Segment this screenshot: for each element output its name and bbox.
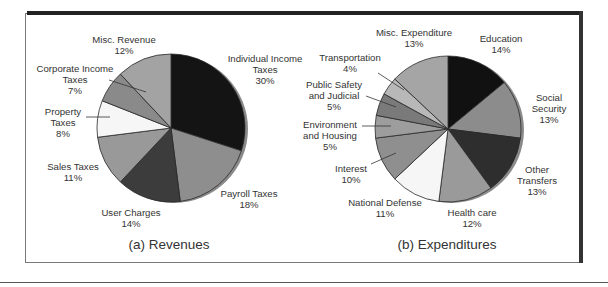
label-misc-expenditure-pct: 13%: [404, 38, 424, 49]
label-user-charges-pct: 14%: [121, 218, 141, 229]
label-environment: Environment: [303, 119, 357, 130]
figure: Misc. Revenue 12% Individual Income Taxe…: [0, 0, 608, 287]
label-social-security-2: Security: [532, 103, 567, 114]
label-property-pct: 8%: [56, 128, 70, 139]
label-corporate-income-pct: 7%: [68, 85, 82, 96]
label-misc-revenue-pct: 12%: [114, 45, 134, 56]
caption-expenditures: (b) Expenditures: [397, 237, 496, 252]
label-other-transfers-pct: 13%: [527, 186, 547, 197]
label-interest-pct: 10%: [341, 174, 361, 185]
label-corporate-income: Corporate Income: [37, 63, 114, 74]
label-social-security-pct: 13%: [539, 114, 559, 125]
label-payroll: Payroll Taxes: [221, 188, 278, 199]
label-sales: Sales Taxes: [47, 161, 99, 172]
label-national-defense: National Defense: [348, 197, 422, 208]
label-other-transfers-2: Transfers: [517, 175, 557, 186]
label-misc-expenditure: Misc. Expenditure: [376, 27, 452, 38]
label-individual-income-pct: 30%: [255, 75, 275, 86]
label-property-2: Taxes: [50, 117, 75, 128]
label-corporate-income-2: Taxes: [62, 74, 87, 85]
label-health-care-pct: 12%: [462, 218, 482, 229]
label-transportation-pct: 4%: [343, 63, 357, 74]
label-public-safety: Public Safety: [306, 79, 362, 90]
label-education-pct: 14%: [491, 44, 511, 55]
label-sales-pct: 11%: [64, 172, 83, 183]
label-education: Education: [480, 33, 523, 44]
label-environment-pct: 5%: [323, 141, 337, 152]
label-misc-revenue: Misc. Revenue: [92, 34, 155, 45]
label-social-security: Social: [536, 92, 562, 103]
label-payroll-pct: 18%: [239, 199, 259, 210]
label-national-defense-pct: 11%: [376, 208, 395, 219]
label-other-transfers: Other: [525, 164, 550, 175]
label-individual-income-2: Taxes: [252, 64, 277, 75]
label-public-safety-2: and Judicial: [309, 90, 360, 101]
label-transportation: Transportation: [319, 52, 381, 63]
caption-revenues: (a) Revenues: [128, 237, 209, 252]
label-user-charges: User Charges: [101, 207, 160, 218]
label-public-safety-pct: 5%: [327, 101, 341, 112]
label-health-care: Health care: [447, 207, 496, 218]
label-property: Property: [45, 106, 81, 117]
label-individual-income: Individual Income: [228, 53, 303, 64]
label-environment-2: and Housing: [303, 130, 357, 141]
label-interest: Interest: [335, 163, 367, 174]
